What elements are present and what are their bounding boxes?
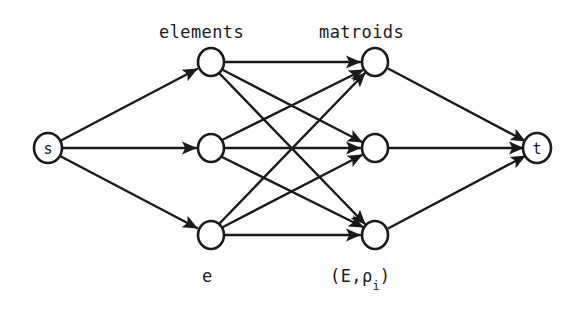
edge-group-matroids-to-sink: [389, 69, 525, 228]
node-matroid-2[interactable]: [362, 134, 388, 162]
matroid-generic-subscript: i: [373, 279, 380, 293]
node-sink-label: t: [532, 140, 541, 158]
node-element-1[interactable]: [198, 48, 224, 76]
node-group-matroids[interactable]: [362, 48, 388, 249]
matroid-generic-prefix: (E,ρ: [330, 266, 373, 286]
node-element-2[interactable]: [198, 134, 224, 162]
node-group-sink[interactable]: t: [523, 133, 551, 163]
matroid-generic-label: (E,ρi): [330, 268, 390, 288]
edge-group-source-to-elements: [60, 69, 197, 228]
edge-m3-to-t: [389, 156, 525, 228]
matroid-generic-suffix: ): [380, 266, 391, 286]
node-matroid-1[interactable]: [362, 48, 388, 76]
element-generic-label: e: [202, 268, 213, 285]
edge-group-bipartite: [220, 62, 365, 235]
node-matroid-3[interactable]: [362, 221, 388, 249]
edge-s-to-e3: [60, 156, 197, 228]
node-source-label: s: [43, 140, 52, 158]
column-label-elements: elements: [159, 24, 244, 41]
node-element-3[interactable]: [198, 221, 224, 249]
figure-canvas: s t elements matroids e (E,ρi): [0, 0, 579, 315]
node-group-elements[interactable]: [198, 48, 224, 249]
edge-m1-to-t: [389, 69, 525, 141]
flow-network-diagram: s t: [0, 0, 579, 315]
edge-s-to-e1: [60, 69, 197, 141]
node-group-source[interactable]: s: [34, 133, 62, 163]
column-label-matroids: matroids: [319, 24, 404, 41]
